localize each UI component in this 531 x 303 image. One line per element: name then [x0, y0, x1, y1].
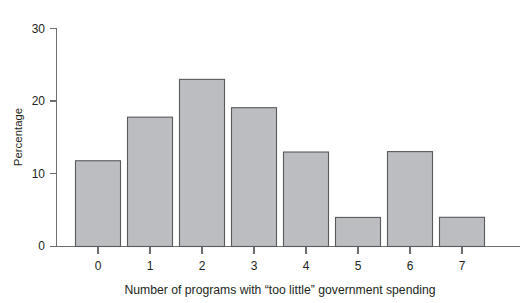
x-tick-label-3: 3 — [251, 259, 258, 273]
y-tick-label-20: 20 — [32, 94, 46, 108]
bar-7 — [440, 217, 485, 246]
y-tick-label-30: 30 — [32, 22, 46, 36]
chart-canvas: 0 10 20 30 Percentage 0 — [0, 0, 531, 303]
x-axis-ticks — [98, 247, 462, 255]
y-axis-ticks — [50, 29, 57, 247]
bar-6 — [388, 152, 433, 247]
bar-5 — [336, 217, 381, 246]
x-tick-label-0: 0 — [95, 259, 102, 273]
bar-3 — [232, 108, 277, 247]
x-axis-title: Number of programs with “too little” gov… — [125, 283, 436, 297]
x-tick-label-2: 2 — [199, 259, 206, 273]
bar-series — [76, 79, 485, 246]
x-tick-label-7: 7 — [459, 259, 466, 273]
y-axis-title: Percentage — [12, 108, 24, 166]
y-tick-label-0: 0 — [38, 239, 45, 253]
x-tick-label-5: 5 — [355, 259, 362, 273]
x-tick-label-4: 4 — [303, 259, 310, 273]
bar-2 — [180, 79, 225, 246]
bar-chart-figure: 0 10 20 30 Percentage 0 — [0, 0, 531, 303]
y-tick-label-10: 10 — [32, 167, 46, 181]
x-tick-label-1: 1 — [147, 259, 154, 273]
bar-0 — [76, 161, 121, 247]
bar-1 — [128, 117, 173, 246]
bar-4 — [284, 152, 329, 246]
x-tick-label-6: 6 — [407, 259, 414, 273]
